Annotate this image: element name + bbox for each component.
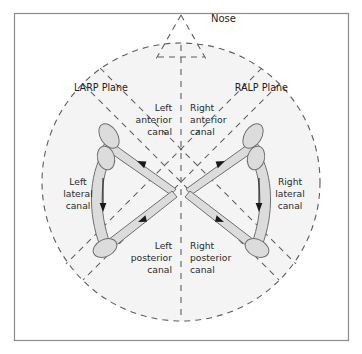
- svg-text:posterior: posterior: [190, 252, 231, 263]
- svg-text:canal: canal: [190, 126, 215, 137]
- svg-text:anterior: anterior: [190, 114, 227, 125]
- canal-plane-diagram: Nose LARP Plane RALP Plane Left anterior…: [0, 0, 362, 354]
- svg-text:Right: Right: [190, 102, 215, 113]
- ralp-plane-label: RALP Plane: [235, 82, 288, 93]
- svg-text:canal: canal: [278, 200, 303, 211]
- svg-text:lateral: lateral: [275, 188, 304, 199]
- svg-text:Right: Right: [278, 176, 303, 187]
- svg-text:canal: canal: [147, 126, 172, 137]
- svg-text:posterior: posterior: [131, 252, 172, 263]
- svg-text:lateral: lateral: [63, 188, 92, 199]
- svg-text:canal: canal: [66, 200, 91, 211]
- svg-text:Left: Left: [155, 240, 173, 251]
- svg-text:Right: Right: [190, 240, 215, 251]
- svg-text:anterior: anterior: [136, 114, 173, 125]
- right-lateral-canal-label: Right lateral canal: [275, 176, 304, 211]
- nose-label: Nose: [211, 13, 236, 24]
- svg-text:canal: canal: [190, 264, 215, 275]
- larp-plane-label: LARP Plane: [74, 82, 128, 93]
- svg-text:Left: Left: [69, 176, 87, 187]
- svg-text:canal: canal: [147, 264, 172, 275]
- svg-text:Left: Left: [155, 102, 173, 113]
